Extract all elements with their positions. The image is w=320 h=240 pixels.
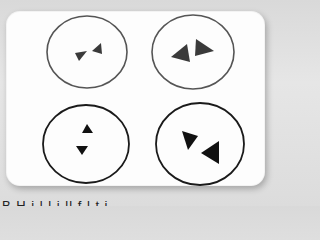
triangle-icon xyxy=(92,43,102,54)
figure xyxy=(0,0,289,206)
triangle-icon xyxy=(201,141,219,164)
caption-text: B H i l l i ll f l t i xyxy=(2,198,287,206)
circle-top-right xyxy=(152,15,234,89)
circle-top-left xyxy=(47,16,127,88)
triangle-icon xyxy=(195,39,214,56)
triangle-icon xyxy=(76,146,88,155)
circle-bottom-right xyxy=(156,103,244,185)
triangle-icon xyxy=(82,124,93,133)
circle-bottom-left xyxy=(43,105,129,183)
triangle-icon xyxy=(171,44,190,62)
triangle-icon xyxy=(75,51,87,61)
triangle-icon xyxy=(182,131,198,150)
